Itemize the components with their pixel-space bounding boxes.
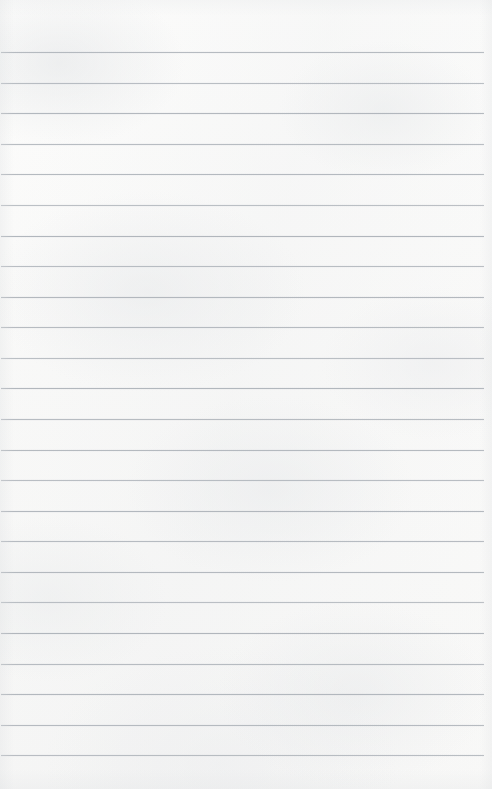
rule-line — [1, 664, 484, 665]
rule-line — [1, 113, 484, 114]
rule-line — [1, 725, 484, 726]
rule-line — [1, 450, 484, 451]
rule-line — [1, 236, 484, 237]
rule-line — [1, 511, 484, 512]
page-edge-shading — [0, 0, 492, 789]
rule-line — [1, 205, 484, 206]
rule-line — [1, 266, 484, 267]
rule-line — [1, 144, 484, 145]
rule-line — [1, 633, 484, 634]
rule-line — [1, 602, 484, 603]
rule-line — [1, 297, 484, 298]
rule-line — [1, 174, 484, 175]
rule-line — [1, 327, 484, 328]
rule-line — [1, 419, 484, 420]
rule-line — [1, 480, 484, 481]
rule-line — [1, 572, 484, 573]
rule-line — [1, 52, 484, 53]
rule-line — [1, 541, 484, 542]
rule-line — [1, 388, 484, 389]
rule-line — [1, 755, 484, 756]
rule-line — [1, 694, 484, 695]
rule-line — [1, 358, 484, 359]
rule-line — [1, 83, 484, 84]
notebook-page — [0, 0, 492, 789]
